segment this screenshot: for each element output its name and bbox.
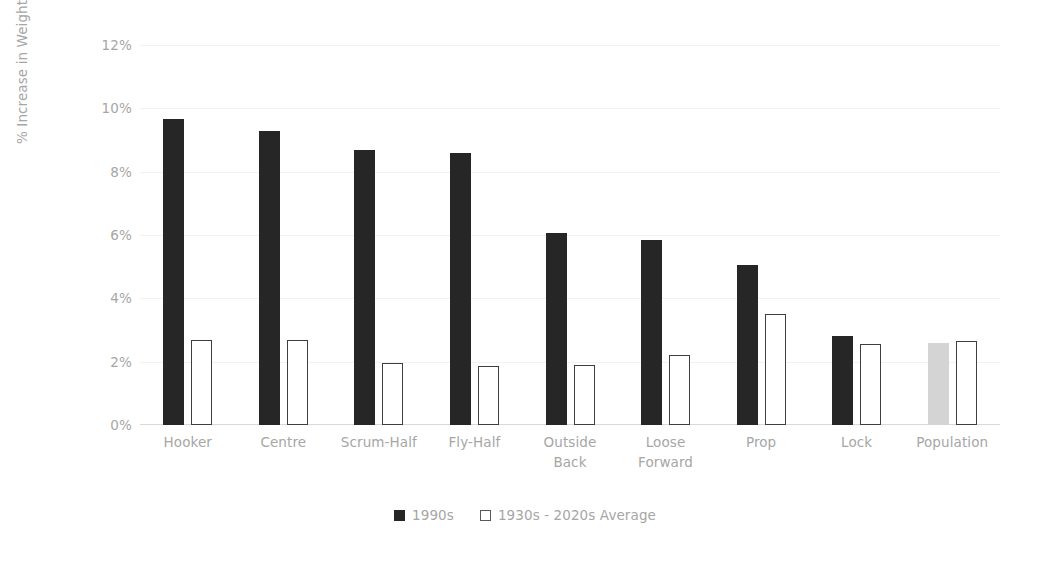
bar — [287, 340, 308, 426]
bar-group — [832, 45, 881, 425]
bar — [163, 119, 184, 425]
bar — [641, 240, 662, 425]
bar-chart: % Increase in Weight 0%2%4%6%8%10%12% Ho… — [0, 0, 1050, 562]
bar — [860, 344, 881, 425]
bar-group — [163, 45, 212, 425]
bar — [832, 336, 853, 425]
legend-swatch-outline-icon — [480, 510, 491, 521]
y-axis-title: % Increase in Weight — [14, 0, 38, 144]
x-axis-tick-label: OutsideBack — [522, 432, 618, 472]
plot-area — [140, 45, 1000, 425]
chart-legend: 1990s1930s - 2020s Average — [0, 500, 1050, 530]
bar — [478, 366, 499, 425]
bar — [928, 343, 949, 425]
legend-item[interactable]: 1930s - 2020s Average — [480, 507, 656, 523]
x-axis-tick-label: Centre — [236, 432, 332, 452]
bar-group — [259, 45, 308, 425]
legend-item[interactable]: 1990s — [394, 507, 454, 523]
y-axis-tick-label: 0% — [74, 417, 132, 433]
x-axis-tick-label: Scrum-Half — [331, 432, 427, 452]
y-axis-tick-label: 6% — [74, 227, 132, 243]
y-axis-tick-label: 2% — [74, 354, 132, 370]
bar — [574, 365, 595, 425]
bar — [737, 265, 758, 425]
x-axis-tick-label: LooseForward — [618, 432, 714, 472]
bar — [450, 153, 471, 425]
x-axis-tick-label: Prop — [713, 432, 809, 452]
legend-label: 1990s — [412, 507, 454, 523]
x-axis-tick-label: Fly-Half — [427, 432, 523, 452]
bar-group — [546, 45, 595, 425]
x-axis-tick-label: Lock — [809, 432, 905, 452]
bar — [765, 314, 786, 425]
bar-group — [641, 45, 690, 425]
x-axis-tick-labels: HookerCentreScrum-HalfFly-HalfOutsideBac… — [140, 432, 1000, 488]
bar-group — [450, 45, 499, 425]
bar — [546, 233, 567, 425]
x-axis-tick-label: Hooker — [140, 432, 236, 452]
y-axis-tick-label: 10% — [74, 100, 132, 116]
bar-group — [928, 45, 977, 425]
x-axis-tick-label: Population — [904, 432, 1000, 452]
bar — [382, 363, 403, 425]
y-axis-tick-labels: 0%2%4%6%8%10%12% — [74, 0, 132, 562]
bar — [259, 131, 280, 426]
bar-group — [354, 45, 403, 425]
bar — [956, 341, 977, 425]
bar-group — [737, 45, 786, 425]
y-axis-tick-label: 12% — [74, 37, 132, 53]
bar — [354, 150, 375, 426]
legend-swatch-filled-icon — [394, 510, 405, 521]
bar — [669, 355, 690, 425]
legend-label: 1930s - 2020s Average — [498, 507, 656, 523]
y-axis-tick-label: 4% — [74, 290, 132, 306]
y-axis-tick-label: 8% — [74, 164, 132, 180]
bar — [191, 340, 212, 426]
